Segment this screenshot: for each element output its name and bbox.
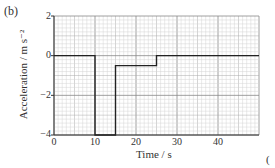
chart-plot [0, 0, 275, 168]
